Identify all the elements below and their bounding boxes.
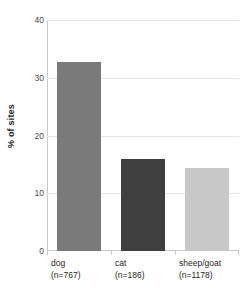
x-axis-label-group: sheep/goat(n=1178) [179, 258, 221, 281]
x-axis-sample-size: (n=767) [51, 270, 81, 282]
gridline [47, 20, 239, 21]
x-axis-category-name: sheep/goat [179, 258, 221, 270]
bar-cat[interactable] [121, 159, 165, 251]
x-axis-tick-mark [238, 251, 239, 255]
x-axis-sample-size: (n=1178) [179, 270, 221, 282]
y-axis-tick-label: 40 [18, 15, 44, 25]
bar-chart-figure: % of sites 010203040 dog(n=767)cat(n=186… [0, 0, 246, 307]
x-axis-category-labels: dog(n=767)cat(n=186)sheep/goat(n=1178) [47, 258, 243, 298]
x-axis-tick-mark [47, 251, 48, 255]
x-axis-tick-marks [47, 251, 239, 256]
x-axis-label-group: dog(n=767) [51, 258, 81, 281]
x-axis-sample-size: (n=186) [115, 270, 145, 282]
y-axis-tick-label: 30 [18, 73, 44, 83]
y-axis-tick-label: 0 [18, 246, 44, 256]
y-axis-tick-label: 20 [18, 131, 44, 141]
bar-dog[interactable] [57, 62, 101, 251]
y-axis-tick-labels: 010203040 [14, 0, 44, 307]
x-axis-category-name: cat [115, 258, 145, 270]
plot-area [47, 20, 239, 251]
x-axis-tick-mark [175, 251, 176, 255]
bar-sheep-goat[interactable] [185, 168, 229, 251]
y-axis-tick-label: 10 [18, 188, 44, 198]
x-axis-category-name: dog [51, 258, 81, 270]
x-axis-tick-mark [111, 251, 112, 255]
x-axis-label-group: cat(n=186) [115, 258, 145, 281]
